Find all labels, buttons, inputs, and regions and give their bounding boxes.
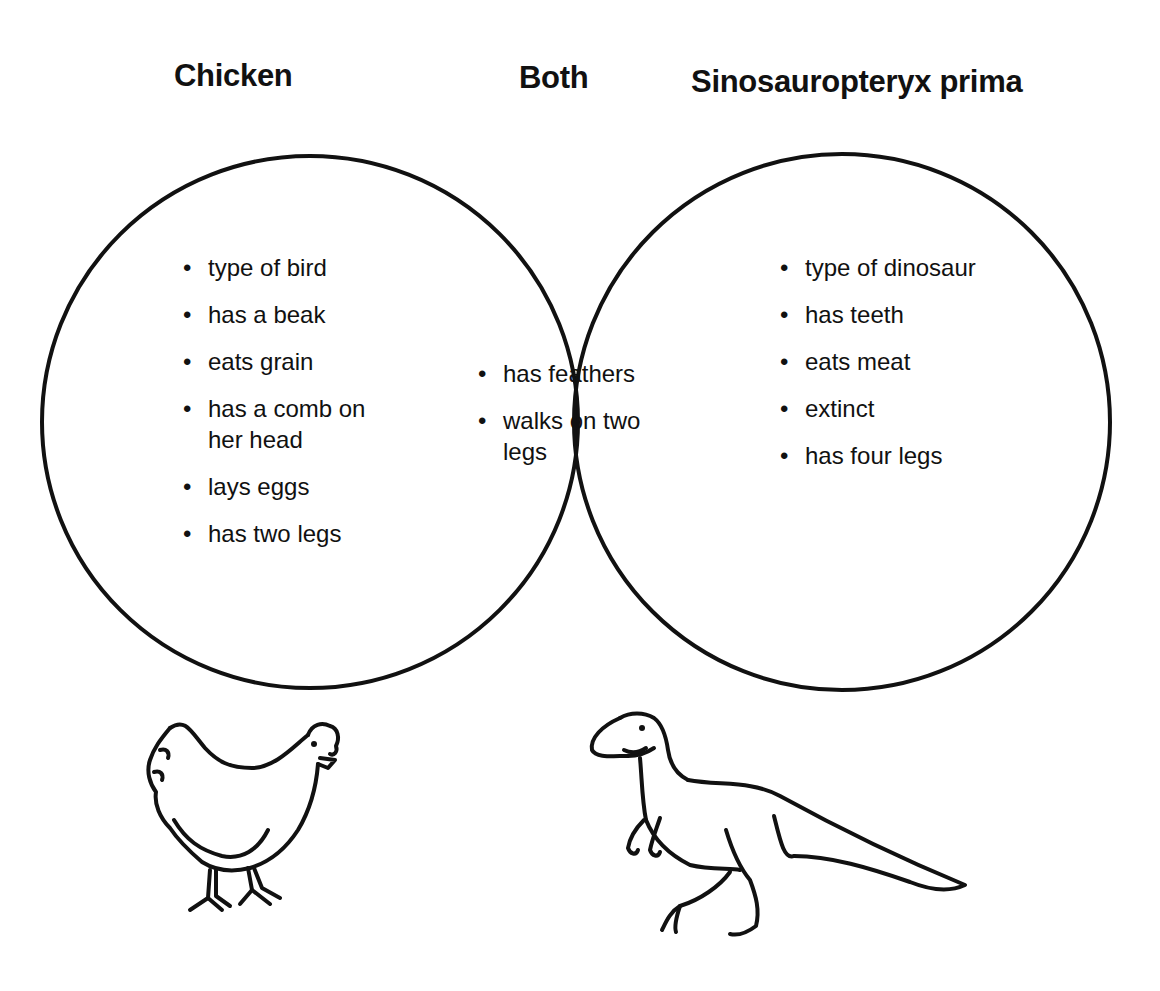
list-item: has four legs (780, 440, 1040, 471)
list-item: has teeth (780, 299, 1040, 330)
list-item: has two legs (183, 518, 413, 549)
list-item: eats meat (780, 346, 1040, 377)
list-item: has feathers (478, 358, 678, 389)
chicken-traits-list: type of bird has a beak eats grain has a… (183, 252, 413, 565)
list-item: extinct (780, 393, 1040, 424)
dinosaur-illustration (580, 700, 980, 950)
list-item: walks on two legs (478, 405, 673, 467)
list-item: has a comb on her head (183, 393, 398, 455)
list-item: eats grain (183, 346, 413, 377)
list-item: lays eggs (183, 471, 413, 502)
list-item: type of dinosaur (780, 252, 1040, 283)
list-item: type of bird (183, 252, 413, 283)
eye-icon (311, 741, 317, 747)
dinosaur-traits-list: type of dinosaur has teeth eats meat ext… (780, 252, 1040, 487)
eye-icon (639, 725, 645, 731)
list-item: has a beak (183, 299, 413, 330)
shared-traits-list: has feathers walks on two legs (478, 358, 678, 483)
chicken-illustration (130, 700, 360, 930)
